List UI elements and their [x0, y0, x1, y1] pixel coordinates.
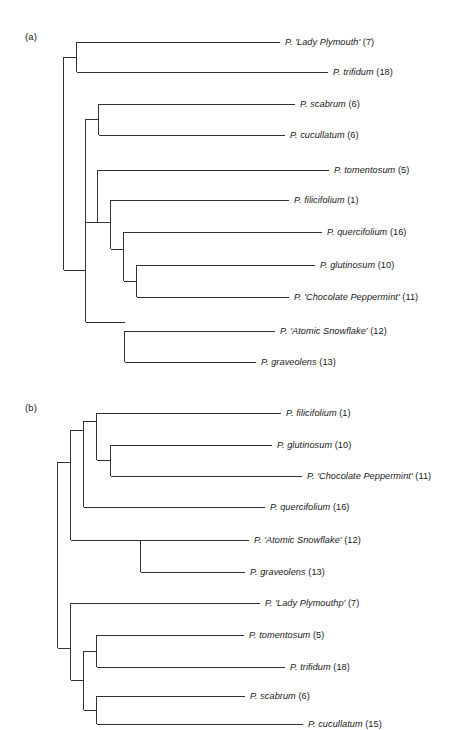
tip-label-b-glutinosum: P. glutinosum (10) — [277, 441, 351, 450]
tip-label-a-lady-plymouth: P. 'Lady Plymouth' (7) — [285, 38, 374, 47]
tip-label-b-cucullatum: P. cucullatum (15) — [308, 720, 382, 729]
tip-label-b-quercifolium: P. quercifolium (16) — [270, 503, 349, 512]
dendrogram-panel-b — [0, 0, 471, 730]
tip-label-a-tomentosum: P. tomentosum (5) — [334, 166, 409, 175]
tip-label-b-filicifolium: P. filicifolium (1) — [286, 409, 351, 418]
figure-dendrogram-pair: (a) (b) — [0, 0, 471, 730]
tip-label-a-cucullatum: P. cucullatum (6) — [290, 131, 359, 140]
tip-label-a-graveolens: P. graveolens (13) — [261, 358, 336, 367]
tip-label-a-chocolate-peppermint: P. 'Chocolate Peppermint' (11) — [294, 293, 418, 302]
tip-label-b-atomic-snowflake: P. 'Atomic Snowflake' (12) — [254, 536, 361, 545]
tip-label-a-glutinosum: P. glutinosum (10) — [320, 261, 394, 270]
tip-label-a-filicifolium: P. filicifolium (1) — [294, 196, 359, 205]
tip-label-b-scabrum: P. scabrum (6) — [250, 692, 310, 701]
tip-label-a-trifidum: P. trifidum (18) — [333, 68, 393, 77]
tip-label-a-quercifolium: P. quercifolium (16) — [327, 228, 406, 237]
tip-label-a-scabrum: P. scabrum (6) — [300, 100, 360, 109]
tip-label-b-graveolens: P. graveolens (13) — [250, 568, 325, 577]
tip-label-a-atomic-snowflake: P. 'Atomic Snowflake' (12) — [280, 327, 387, 336]
tip-label-b-tomentosum: P. tomentosum (5) — [249, 631, 324, 640]
tip-label-b-trifidum: P. trifidum (18) — [290, 663, 350, 672]
tip-label-b-chocolate-peppermint: P. 'Chocolate Peppermint' (11) — [307, 472, 431, 481]
tip-label-b-lady-plymouth: P. 'Lady Plymouthp' (7) — [265, 599, 359, 608]
